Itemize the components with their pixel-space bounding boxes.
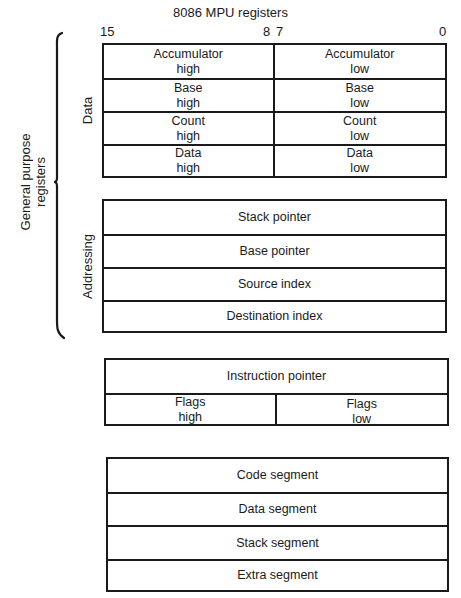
register-row-data: Data high Data low xyxy=(104,144,445,176)
control-registers-box: Instruction pointer Flags high Flags low xyxy=(104,358,449,426)
register-ip: Instruction pointer xyxy=(106,360,447,393)
register-es: Extra segment xyxy=(108,559,447,590)
register-cs: Code segment xyxy=(108,459,447,492)
register-sp: Stack pointer xyxy=(104,201,445,234)
register-di: Destination index xyxy=(104,300,445,331)
bit-label-0: 0 xyxy=(439,24,446,39)
bit-label-8: 8 xyxy=(263,24,270,39)
register-bh: Base high xyxy=(104,80,275,111)
segment-registers-box: Code segment Data segment Stack segment … xyxy=(106,457,449,592)
register-ah: Accumulator high xyxy=(104,45,275,78)
register-bl: Base low xyxy=(275,80,446,111)
register-ss: Stack segment xyxy=(108,525,447,559)
bit-label-7: 7 xyxy=(276,24,283,39)
register-row-accumulator: Accumulator high Accumulator low xyxy=(104,45,445,78)
register-dh: Data high xyxy=(104,146,275,176)
general-purpose-label: General purpose registers xyxy=(0,162,98,202)
bit-label-15: 15 xyxy=(100,24,114,39)
register-bp: Base pointer xyxy=(104,234,445,267)
register-al: Accumulator low xyxy=(275,45,446,78)
register-flags: Flags high Flags low xyxy=(106,393,447,424)
register-flags-low: Flags low xyxy=(277,395,448,424)
diagram-title: 8086 MPU registers xyxy=(0,5,461,20)
register-dl: Data low xyxy=(275,146,446,176)
register-cl: Count low xyxy=(275,113,446,144)
register-row-base: Base high Base low xyxy=(104,78,445,111)
general-purpose-line2: registers xyxy=(33,134,48,231)
register-ch: Count high xyxy=(104,113,275,144)
addressing-registers-box: Stack pointer Base pointer Source index … xyxy=(102,199,447,333)
register-si: Source index xyxy=(104,267,445,300)
register-ds: Data segment xyxy=(108,492,447,525)
register-row-count: Count high Count low xyxy=(104,111,445,144)
data-registers-box: Accumulator high Accumulator low Base hi… xyxy=(102,43,447,178)
register-flags-high: Flags high xyxy=(106,395,277,424)
general-purpose-line1: General purpose xyxy=(18,134,33,231)
